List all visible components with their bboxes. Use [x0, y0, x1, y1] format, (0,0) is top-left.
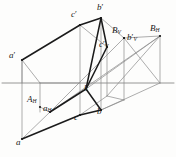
point-label-b_prime: b′: [97, 3, 103, 12]
a-H-to-c-prime-V-ray: [50, 38, 124, 112]
b-bottom-to-B-V-vert: [101, 100, 124, 110]
vertex-dot-B_H: [159, 35, 161, 37]
point-label-k: k: [84, 84, 88, 93]
a-prime-to-A-H: [22, 60, 40, 83]
vertex-dot-c_prime: [79, 24, 81, 26]
vertex-dot-a_bottom: [21, 138, 23, 140]
lower-parallel-c-to-B: [107, 96, 124, 100]
heavy-outline-lines: [22, 18, 107, 139]
point-label-a_H: aH: [43, 104, 52, 114]
a-bottom-to-c-bottom: [22, 115, 80, 139]
point-label-c_prime_V: c′V: [99, 40, 108, 50]
point-label-a_bottom: a: [16, 138, 21, 147]
c-prime-to-b-prime: [80, 18, 101, 25]
geometry-figure: a′c′b′BVb′Vc′VBHAHaHkcba: [0, 0, 176, 157]
point-label-a_prime: a′: [9, 51, 15, 60]
a-bottom-to-a-H: [22, 112, 50, 139]
a-prime-to-c-prime: [22, 25, 80, 60]
vertex-dot-b_prime: [100, 17, 102, 19]
a-H-to-k: [50, 89, 86, 112]
B-V-to-ground-right: [124, 38, 160, 83]
point-label-b_prime_V: b′V: [127, 33, 137, 43]
point-label-b_bottom: b: [97, 107, 102, 116]
point-label-B_V: BV: [112, 26, 121, 36]
vertex-dot-A_H: [39, 106, 41, 108]
point-label-B_H: BH: [150, 24, 160, 34]
vertex-dot-c_bottom: [79, 114, 81, 116]
point-label-c_prime: c′: [71, 10, 77, 19]
vertex-dot-b_prime_V: [123, 37, 125, 39]
vertex-dot-a_prime: [21, 59, 23, 61]
point-label-A_H: AH: [27, 95, 37, 105]
point-label-c_bottom: c: [74, 113, 78, 122]
